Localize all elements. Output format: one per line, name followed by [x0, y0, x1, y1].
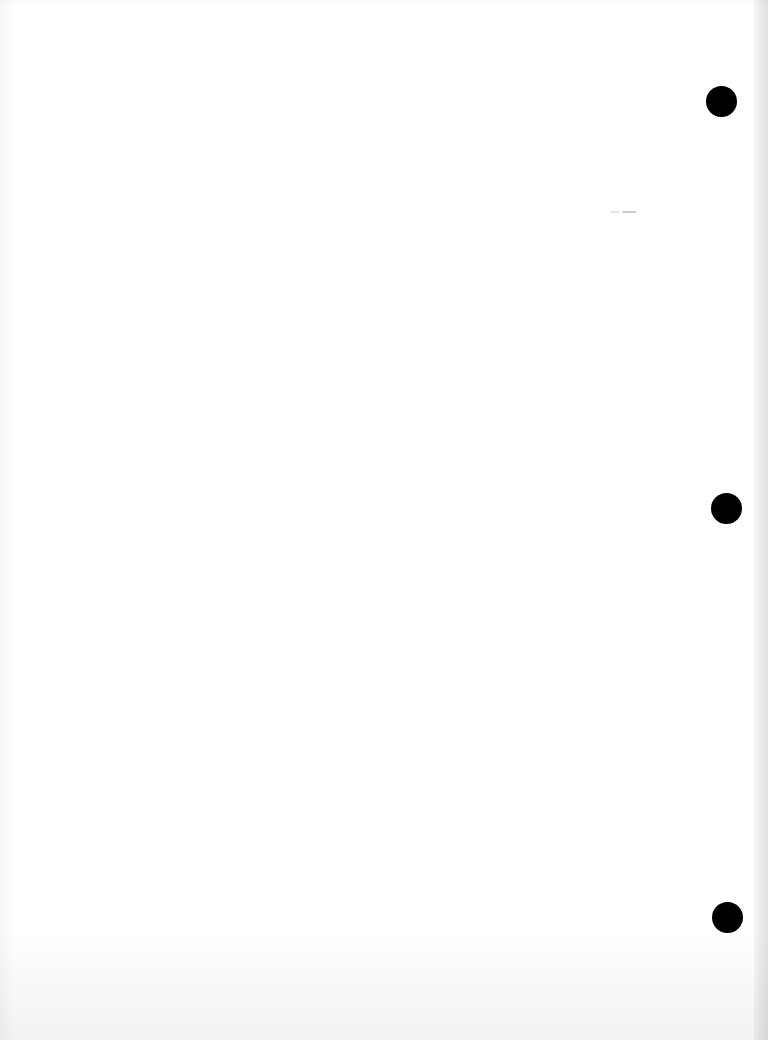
hole-punch-middle — [711, 493, 742, 524]
hole-punch-bottom — [712, 902, 743, 933]
hole-punch-top — [706, 86, 737, 117]
page-right-edge-shadow — [754, 0, 768, 1040]
scanned-page — [0, 0, 768, 1040]
scan-vignette — [0, 0, 768, 1040]
scan-speck — [622, 211, 636, 213]
scan-speck — [610, 211, 620, 213]
